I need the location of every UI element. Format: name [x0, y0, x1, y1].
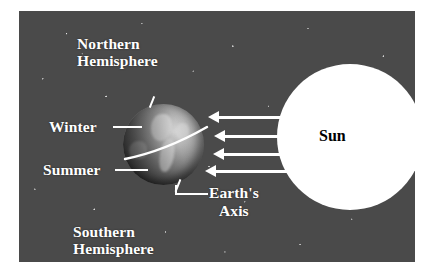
sun-ray-2	[225, 135, 297, 138]
winter-label: Winter	[49, 118, 97, 135]
seasons-diagram: Sun Northern Hemisphere	[0, 0, 427, 276]
winter-leader-line	[113, 126, 142, 128]
sun-ray-arrowhead-3	[213, 148, 224, 160]
earths-axis-leader-horizontal	[175, 193, 208, 195]
earths-axis-label: Earth's Axis	[209, 184, 259, 220]
southern-hemisphere-label: Southern Hemisphere	[73, 223, 154, 257]
sun-ray-3	[224, 153, 297, 156]
northern-hemisphere-label: Northern Hemisphere	[77, 35, 158, 69]
space-background-panel: Sun Northern Hemisphere	[19, 11, 415, 262]
sun-ray-1	[219, 116, 291, 119]
sun-ray-4	[216, 170, 290, 173]
equator-line	[115, 99, 213, 191]
sun-disc	[277, 64, 415, 210]
summer-leader-line	[115, 169, 148, 171]
sun-label: Sun	[319, 127, 346, 145]
summer-label: Summer	[43, 161, 100, 178]
sun-ray-arrowhead-2	[214, 130, 225, 142]
